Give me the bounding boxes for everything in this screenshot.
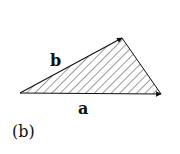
vector-triangle-diagram: b a (b) [0, 0, 180, 154]
hatched-triangle-area [20, 38, 161, 94]
panel-label: (b) [12, 122, 35, 141]
vector-a-label: a [78, 99, 88, 118]
vector-b-label: b [50, 51, 61, 70]
